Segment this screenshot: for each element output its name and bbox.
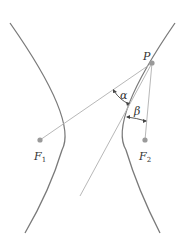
label-f2-main: F: [138, 150, 147, 163]
point-f1: [37, 137, 42, 142]
angle-beta-arrow-start: [126, 115, 130, 119]
label-p: P: [142, 50, 151, 63]
label-f2-sub: 2: [147, 156, 151, 164]
label-f2: F2: [138, 150, 151, 164]
hyperbola-diagram: P α β F1 F2: [0, 0, 191, 235]
label-f1-sub: 1: [42, 156, 46, 164]
label-beta: β: [133, 105, 140, 118]
tangent-line: [80, 63, 152, 196]
angle-alpha-arrow-start: [113, 89, 117, 93]
point-f2: [142, 137, 147, 142]
label-f1-main: F: [33, 150, 42, 163]
label-alpha: α: [120, 89, 128, 102]
label-f1: F1: [33, 150, 46, 164]
